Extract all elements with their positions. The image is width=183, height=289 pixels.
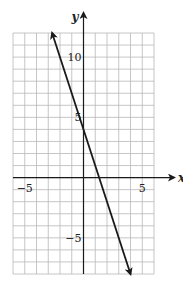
- y-axis-label: y: [71, 10, 80, 24]
- coordinate-plane: xy −55105−5: [0, 0, 183, 289]
- y-tick-label: −5: [65, 232, 81, 245]
- tick-labels: −55105−5: [17, 51, 146, 245]
- x-tick-label: 5: [139, 182, 146, 195]
- y-tick-label: 10: [68, 51, 82, 64]
- x-tick-label: −5: [17, 182, 33, 195]
- axes: xy: [13, 10, 183, 274]
- x-axis-label: x: [177, 171, 183, 185]
